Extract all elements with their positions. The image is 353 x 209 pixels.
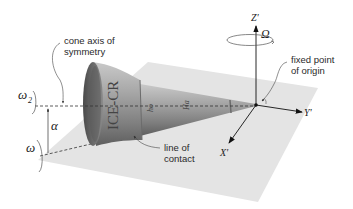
line-of-contact-label-line2: contact (164, 153, 195, 164)
cone-axis-label-line2: symmetry (64, 46, 105, 57)
x-axis-label: X' (219, 147, 229, 158)
y-axis-label: Y' (304, 107, 313, 118)
rolling-cone-diagram: ICE-CR ho Ha Z' Ω Y' X' cone axis of sym… (0, 0, 353, 209)
fixed-point-origin (254, 103, 258, 107)
cone-axis-leader (52, 43, 63, 103)
cone-axis-label-line1: cone axis of (64, 35, 115, 46)
omega2-label: ω (18, 87, 27, 102)
fixed-point-label-line2: of origin (291, 65, 325, 76)
ground-plane (38, 62, 318, 202)
alpha-label: α (51, 118, 59, 133)
omega-label: ω (26, 140, 35, 155)
omega-capital-label: Ω (261, 27, 270, 41)
z-axis-label: Z' (251, 12, 260, 23)
omega2-subscript: 2 (28, 96, 32, 105)
fixed-point-label-line1: fixed point (291, 54, 335, 65)
cone-text-small-1: ho (146, 104, 155, 112)
omega2-rotation-arrow (32, 91, 36, 114)
line-of-contact-label-line1: line of (164, 142, 190, 153)
cone-text-large: ICE-CR (105, 81, 121, 130)
